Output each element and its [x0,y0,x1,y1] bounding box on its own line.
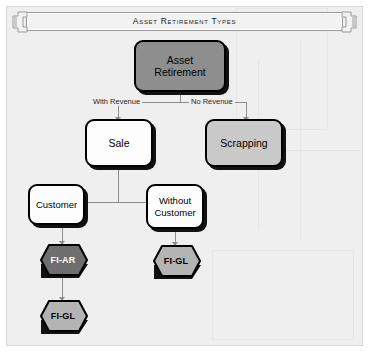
node-scrapping-label: Scrapping [220,137,267,149]
node-customer-label: Customer [36,199,77,210]
node-asset-retirement-label: Asset Retirement [154,54,205,79]
node-sale[interactable]: Sale [85,119,153,167]
node-fi-gl-bottom-label: FI-GL [38,300,88,332]
node-without-customer-line1: Without [154,195,195,206]
node-fi-gl-right[interactable]: FI-GL [151,245,201,278]
node-customer[interactable]: Customer [28,184,85,225]
node-sale-label: Sale [108,137,129,149]
node-without-customer-line2: Customer [154,207,195,218]
connector-asset-to-split [180,92,181,102]
diagram-title: Asset Retirement Types [12,11,357,32]
edge-label-with-revenue: With Revenue [91,97,142,106]
diagram-canvas: Asset Retirement Types With Revenue No R… [0,0,369,361]
node-without-customer[interactable]: Without Customer [146,184,204,229]
node-fi-gl-right-label: FI-GL [151,245,201,277]
connector-sale-down [118,167,119,202]
node-fi-ar[interactable]: FI-AR [38,244,88,277]
node-asset-retirement-line1: Asset [154,54,205,66]
node-fi-gl-bottom[interactable]: FI-GL [38,300,88,333]
node-without-customer-label: Without Customer [154,195,195,217]
node-asset-retirement[interactable]: Asset Retirement [134,40,226,92]
title-banner: Asset Retirement Types [12,11,357,33]
edge-label-no-revenue: No Revenue [189,97,235,106]
node-scrapping[interactable]: Scrapping [205,119,283,167]
node-fi-ar-label: FI-AR [38,244,88,276]
node-asset-retirement-line2: Retirement [154,66,205,78]
connector-fiar-to-figl [62,277,63,299]
